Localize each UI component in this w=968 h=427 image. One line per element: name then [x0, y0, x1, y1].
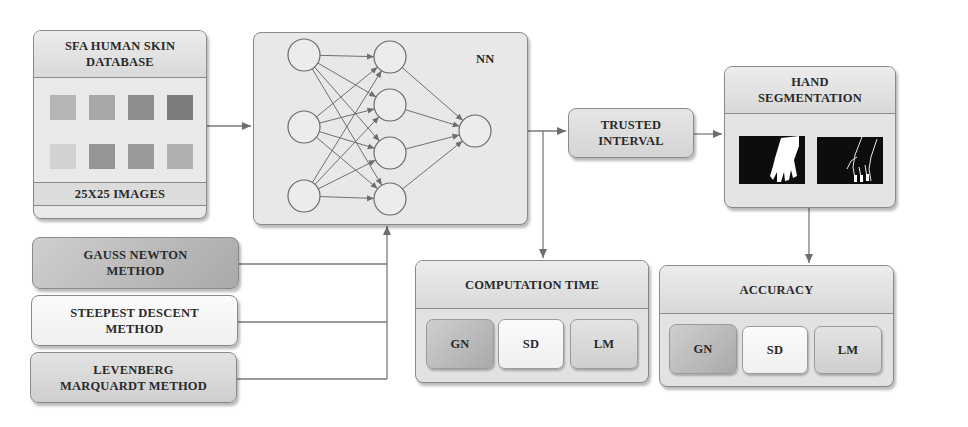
hand-segmentation-title: HAND SEGMENTATION — [758, 74, 862, 106]
nn-connection — [320, 197, 374, 199]
computation-time-lm: LM — [570, 319, 638, 369]
accuracy-title: ACCURACY — [740, 282, 814, 298]
nn-input-node — [288, 111, 320, 143]
nn-connection — [402, 141, 462, 189]
nn-connection — [318, 160, 375, 189]
method-gauss-newton: GAUSS NEWTON METHOD — [32, 237, 239, 289]
method-steepest-descent: STEEPEST DESCENT METHOD — [31, 295, 238, 346]
nn-hidden-node — [374, 89, 406, 121]
method-levenberg-marquardt: LEVENBERG MARQUARDT METHOD — [30, 352, 237, 403]
method-steepest-descent-line2: METHOD — [70, 321, 198, 337]
computation-time-gn: GN — [426, 319, 494, 369]
computation-time-header: COMPUTATION TIME — [416, 261, 648, 309]
hand-segmentation-header: HAND SEGMENTATION — [725, 67, 895, 114]
trusted-interval-box: TRUSTED INTERVAL — [568, 108, 694, 158]
nn-hidden-node — [374, 137, 406, 169]
nn-connection — [320, 55, 374, 56]
computation-time-box: COMPUTATION TIME GN SD LM — [415, 260, 649, 383]
hand-fingertips — [854, 174, 869, 182]
nn-hidden-node — [374, 183, 406, 215]
nn-hidden-node — [374, 41, 406, 73]
nn-connection — [319, 132, 374, 149]
hand-edges-image — [817, 137, 883, 184]
accuracy-box: ACCURACY GN SD LM — [659, 265, 894, 387]
trusted-interval-label: TRUSTED INTERVAL — [598, 117, 664, 149]
hand-silhouette — [770, 136, 799, 182]
accuracy-lm: LM — [814, 326, 882, 374]
method-gauss-newton-line1: GAUSS NEWTON — [84, 247, 188, 263]
nn-connection — [405, 135, 459, 149]
method-steepest-descent-line1: STEEPEST DESCENT — [70, 305, 198, 321]
nn-connection — [402, 68, 463, 121]
accuracy-sd: SD — [742, 326, 808, 374]
method-gauss-newton-line2: METHOD — [84, 263, 188, 279]
accuracy-header: ACCURACY — [660, 266, 893, 314]
computation-time-title: COMPUTATION TIME — [465, 277, 599, 293]
method-levenberg-marquardt-line1: LEVENBERG — [60, 362, 207, 378]
method-levenberg-marquardt-line2: MARQUARDT METHOD — [60, 378, 207, 394]
nn-input-node — [288, 180, 320, 212]
nn-input-node — [288, 39, 320, 71]
hand-edge-lines — [847, 137, 877, 181]
hand-mask-image — [739, 136, 805, 184]
computation-time-sd: SD — [498, 319, 564, 369]
accuracy-gn: GN — [669, 324, 737, 374]
hand-segmentation-box: HAND SEGMENTATION — [724, 66, 896, 208]
nn-connection — [405, 110, 459, 127]
nn-connection — [315, 67, 380, 141]
nn-output-node — [459, 115, 491, 147]
nn-connection — [320, 109, 375, 123]
